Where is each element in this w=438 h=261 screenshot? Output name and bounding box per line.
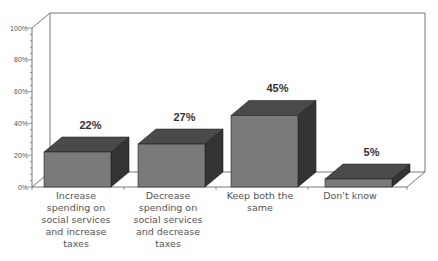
bar: 5% — [325, 146, 410, 187]
y-tick-label: 60% — [14, 88, 28, 95]
x-label-dont-know: Don't know — [302, 190, 398, 202]
value-label: 5% — [364, 146, 380, 158]
value-label: 27% — [173, 111, 195, 123]
x-label-increase: Increase spending on social services and… — [28, 190, 124, 250]
y-tick-label: 80% — [14, 56, 28, 63]
y-tick-label: 20% — [14, 152, 28, 159]
y-tick-label: 40% — [14, 120, 28, 127]
bar: 45% — [231, 82, 316, 187]
y-tick-label: 100% — [10, 25, 28, 32]
bar: 27% — [138, 111, 223, 187]
x-label-decrease: Decrease spending on social services and… — [120, 190, 216, 250]
value-label: 22% — [79, 119, 101, 131]
y-tick-label: 0% — [18, 184, 28, 191]
bar: 22% — [44, 119, 129, 187]
value-label: 45% — [266, 82, 288, 94]
bars: 22%27%45%5% — [44, 82, 410, 187]
x-label-keep-same: Keep both the same — [212, 190, 308, 214]
